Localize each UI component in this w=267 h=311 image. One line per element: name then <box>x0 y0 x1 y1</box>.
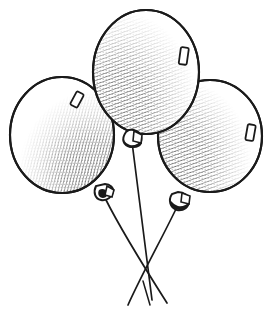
balloon-right-knot <box>170 192 190 210</box>
balloon-drawing-canvas <box>0 0 267 311</box>
balloon-top-highlight-icon <box>179 47 189 65</box>
balloon-illustration: Three Balloons Line Drawing Ink line dra… <box>0 0 267 311</box>
balloon-right-highlight-icon <box>245 124 256 141</box>
balloon-top-knot <box>123 130 142 148</box>
